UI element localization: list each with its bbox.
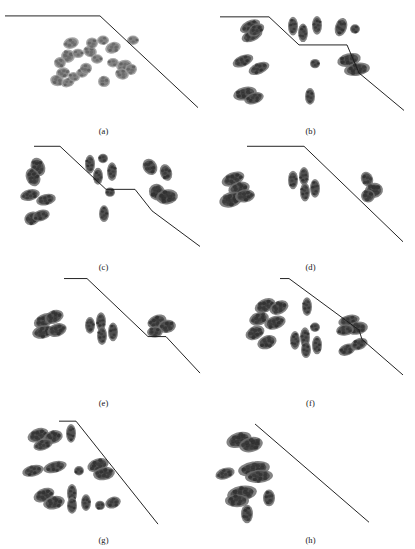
panel-d: (d): [207, 136, 414, 273]
panel-background: [207, 409, 414, 526]
particle-cluster: [312, 16, 322, 35]
particle-cluster: [300, 183, 310, 202]
panel-plot-g: [0, 409, 207, 526]
particle-cluster: [288, 17, 298, 36]
particle-cluster: [85, 317, 95, 334]
particle-cluster: [310, 179, 320, 198]
particle-cluster: [97, 36, 109, 45]
panel-label-f: (f): [207, 398, 414, 408]
particle-cluster: [305, 88, 315, 105]
particle-cluster: [98, 154, 108, 163]
particle-cluster: [288, 171, 298, 190]
particle-cluster: [302, 297, 312, 316]
panel-background: [0, 0, 207, 117]
particle-cluster: [67, 497, 77, 514]
particle-cluster: [74, 466, 84, 475]
particle-cluster: [86, 37, 98, 48]
panel-label-d: (d): [207, 262, 414, 272]
particle-cluster: [241, 504, 253, 523]
particle-cluster: [290, 331, 300, 350]
particle-cluster: [72, 49, 84, 58]
panel-h: (h): [207, 409, 414, 546]
particle-cluster: [66, 424, 76, 443]
particle-cluster: [310, 323, 320, 332]
particle-cluster: [95, 501, 105, 510]
panel-label-b: (b): [207, 126, 414, 136]
panel-label-a: (a): [0, 126, 207, 136]
particle-cluster: [80, 63, 92, 74]
panel-c: (c): [0, 136, 207, 273]
particle-cluster: [125, 64, 137, 75]
panel-e: (e): [0, 272, 207, 409]
particle-cluster: [108, 323, 118, 342]
panel-background: [207, 272, 414, 389]
panel-g: (g): [0, 409, 207, 546]
particle-cluster: [98, 76, 110, 87]
panel-label-e: (e): [0, 398, 207, 408]
particle-cluster: [91, 54, 103, 63]
panel-label-h: (h): [207, 535, 414, 545]
panel-f: (f): [207, 272, 414, 409]
particle-cluster: [298, 23, 308, 42]
particle-cluster: [301, 341, 311, 358]
panel-a: (a): [0, 0, 207, 137]
particle-cluster: [81, 494, 91, 511]
panel-plot-b: [207, 0, 414, 117]
panel-plot-d: [207, 136, 414, 253]
particle-cluster: [350, 24, 360, 33]
particle-cluster: [299, 167, 309, 186]
panel-plot-c: [0, 136, 207, 253]
particle-cluster: [310, 59, 320, 68]
particle-cluster: [107, 162, 117, 181]
particle-cluster: [99, 205, 109, 222]
figure-container: (a)(b)(c)(d)(e)(f)(g)(h): [0, 0, 415, 549]
particle-cluster: [312, 336, 322, 355]
panel-plot-e: [0, 272, 207, 389]
panel-label-c: (c): [0, 262, 207, 272]
panel-b: (b): [207, 0, 414, 137]
particle-cluster: [263, 489, 275, 506]
panel-plot-f: [207, 272, 414, 389]
panel-label-g: (g): [0, 535, 207, 545]
panel-plot-a: [0, 0, 207, 117]
particle-cluster: [97, 326, 107, 345]
panel-plot-h: [207, 409, 414, 526]
